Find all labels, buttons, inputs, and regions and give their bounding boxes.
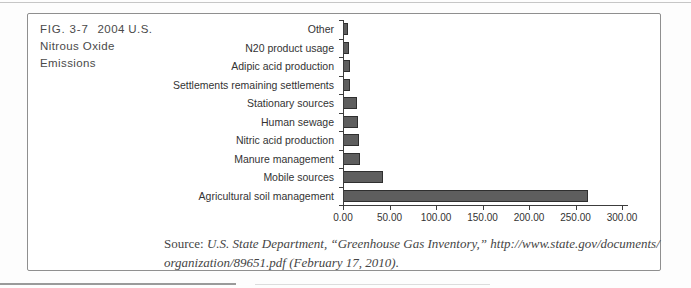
page-rule-bottom-left (0, 283, 236, 285)
bar-mobile-sources (343, 171, 383, 183)
source-line1: Source: U.S. State Department, “Greenhou… (164, 235, 664, 254)
bar-settlements-remaining-settlements (343, 79, 350, 91)
source-prefix: Source: (164, 236, 204, 251)
source-line2: organization/89651.pdf (February 17, 201… (164, 254, 664, 273)
y-axis-tick (339, 131, 343, 132)
x-axis-tick (529, 205, 530, 210)
x-axis-tick (622, 205, 623, 210)
x-axis-tick (390, 205, 391, 210)
figure-box: FIG. 3-72004 U.S. Nitrous Oxide Emission… (27, 13, 661, 271)
source-text1: U.S. State Department, “Greenhouse Gas I… (207, 236, 660, 251)
x-axis-tick (483, 205, 484, 210)
category-label: Other (28, 20, 334, 39)
y-axis-tick (339, 57, 343, 58)
x-axis-line (343, 205, 628, 206)
y-axis-tick (339, 20, 343, 21)
x-axis-tick (436, 205, 437, 210)
category-label: Mobile sources (28, 168, 334, 187)
bar-nitric-acid-production (343, 134, 359, 146)
bar-manure-management (343, 153, 360, 165)
y-axis-tick (339, 39, 343, 40)
x-tick-label: 300.00 (592, 212, 652, 223)
y-axis-tick (339, 187, 343, 188)
category-label: Manure management (28, 150, 334, 169)
category-label: Stationary sources (28, 94, 334, 113)
category-label: Settlements remaining settlements (28, 76, 334, 95)
bar-human-sewage (343, 116, 358, 128)
category-label: N20 product usage (28, 39, 334, 58)
category-label: Nitric acid production (28, 131, 334, 150)
category-label: Adipic acid production (28, 57, 334, 76)
category-label: Human sewage (28, 113, 334, 132)
y-axis-tick (339, 150, 343, 151)
bar-stationary-sources (343, 97, 357, 109)
bar-agricultural-soil-management (343, 190, 588, 202)
source-citation: Source: U.S. State Department, “Greenhou… (164, 235, 664, 272)
x-axis-tick (576, 205, 577, 210)
x-axis-tick (343, 205, 344, 210)
y-axis-tick (339, 113, 343, 114)
bar-chart: OtherN20 product usageAdipic acid produc… (28, 14, 660, 270)
y-axis-tick (339, 76, 343, 77)
page-rule-bottom-mid (255, 284, 490, 285)
scanned-page: FIG. 3-72004 U.S. Nitrous Oxide Emission… (0, 0, 691, 288)
y-axis-line (343, 20, 344, 205)
y-axis-tick (339, 168, 343, 169)
page-rule-top (0, 2, 691, 3)
category-label: Agricultural soil management (28, 187, 334, 206)
y-axis-tick (339, 94, 343, 95)
